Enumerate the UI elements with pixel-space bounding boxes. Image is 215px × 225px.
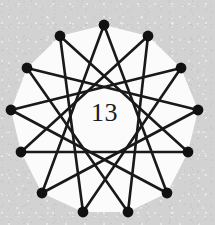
vertex-dot: [193, 105, 204, 116]
vertex-dot: [6, 105, 17, 116]
vertex-dot: [183, 147, 194, 158]
vertex-dot: [123, 207, 134, 218]
star-polygon-figure: 13: [0, 0, 215, 225]
vertex-dot: [143, 31, 154, 42]
center-number-label: 13: [91, 98, 118, 127]
vertex-dot: [55, 31, 66, 42]
star-polygon-canvas: 13: [0, 0, 215, 225]
vertex-dot: [162, 188, 173, 199]
vertex-dot: [16, 147, 27, 158]
vertex-dot: [37, 188, 48, 199]
vertex-dot: [22, 63, 33, 74]
vertex-dot: [176, 63, 187, 74]
vertex-dot: [78, 207, 89, 218]
vertex-dot: [99, 20, 110, 31]
